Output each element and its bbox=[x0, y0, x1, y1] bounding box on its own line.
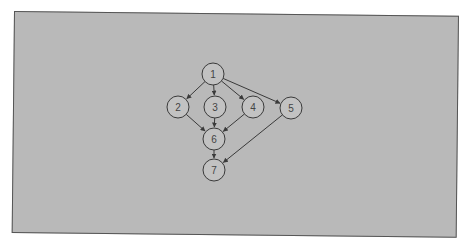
node-2: 2 bbox=[167, 96, 189, 118]
edge-4-to-6 bbox=[223, 114, 244, 131]
node-label: 3 bbox=[212, 102, 218, 113]
edge-5-to-7 bbox=[223, 115, 282, 163]
node-1: 1 bbox=[202, 63, 224, 85]
node-label: 6 bbox=[211, 134, 217, 145]
node-label: 5 bbox=[288, 103, 294, 114]
node-5: 5 bbox=[280, 97, 302, 119]
node-label: 4 bbox=[250, 102, 256, 113]
node-label: 2 bbox=[175, 102, 181, 113]
edge-1-to-2 bbox=[187, 82, 205, 99]
edge-2-to-6 bbox=[186, 114, 205, 131]
edge-1-to-4 bbox=[221, 81, 243, 99]
node-7: 7 bbox=[203, 159, 225, 181]
node-6: 6 bbox=[203, 128, 225, 150]
node-4: 4 bbox=[242, 96, 264, 118]
edge-1-to-3 bbox=[214, 85, 215, 95]
edges-group bbox=[186, 78, 282, 162]
node-3: 3 bbox=[204, 96, 226, 118]
node-label: 7 bbox=[211, 165, 217, 176]
node-label: 1 bbox=[210, 69, 216, 80]
graph-canvas: 1234567 bbox=[0, 0, 469, 244]
